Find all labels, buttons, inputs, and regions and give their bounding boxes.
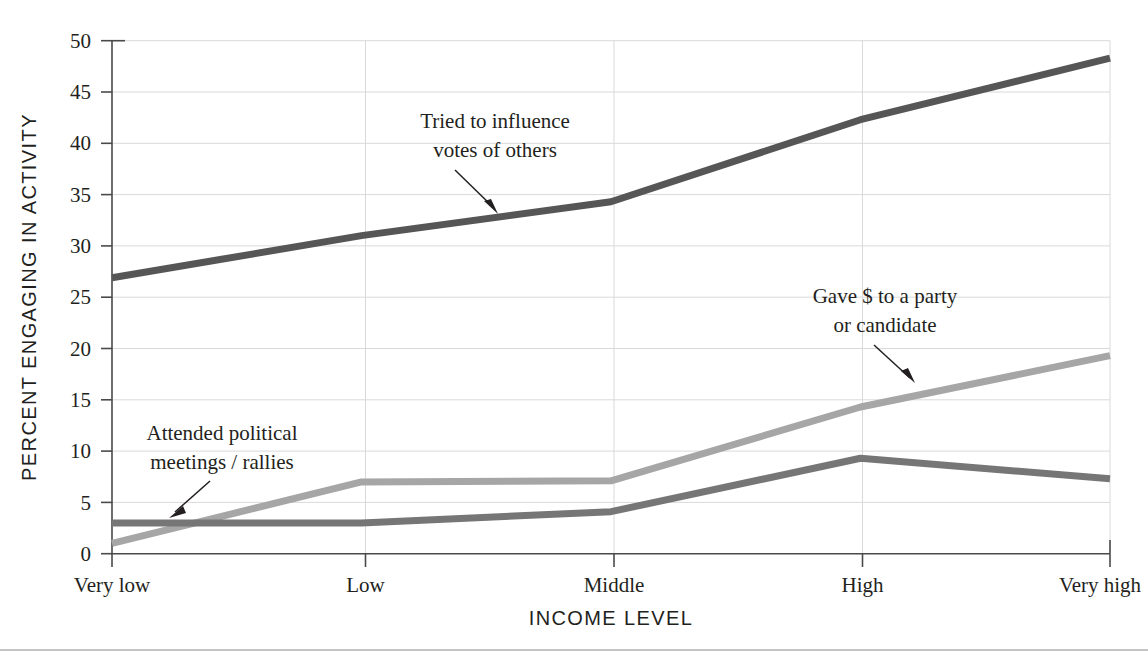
- x-tick-label-low: Low: [346, 573, 385, 597]
- chart-figure: 50 45 40 35 30 25 20 15 10 5 0 Very low …: [0, 0, 1148, 660]
- y-tick-label-20: 20: [70, 337, 91, 361]
- annotation-attended-line1: Attended political: [146, 421, 297, 445]
- y-tick-label-5: 5: [81, 491, 92, 515]
- x-tick-label-middle: Middle: [584, 573, 645, 597]
- x-axis-title: INCOME LEVEL: [529, 607, 694, 629]
- y-tick-label-15: 15: [70, 388, 91, 412]
- y-tick-label-35: 35: [70, 183, 91, 207]
- y-tick-label-10: 10: [70, 439, 91, 463]
- x-tick-label-very-low: Very low: [74, 573, 151, 597]
- x-tick-label-very-high: Very high: [1059, 573, 1142, 597]
- line-chart-canvas: 50 45 40 35 30 25 20 15 10 5 0 Very low …: [0, 0, 1148, 660]
- annotation-attended-line2: meetings / rallies: [150, 450, 293, 474]
- y-tick-label-40: 40: [70, 131, 91, 155]
- y-tick-label-0: 0: [81, 542, 92, 566]
- x-tick-label-high: High: [842, 573, 885, 597]
- y-tick-label-25: 25: [70, 285, 91, 309]
- annotation-influence-line2: votes of others: [433, 138, 557, 162]
- y-tick-label-50: 50: [70, 29, 91, 53]
- chart-background: [0, 0, 1148, 660]
- y-tick-label-30: 30: [70, 234, 91, 258]
- annotation-gave-money-line2: or candidate: [833, 313, 936, 337]
- annotation-gave-money-line1: Gave $ to a party: [813, 284, 958, 308]
- y-tick-label-45: 45: [70, 80, 91, 104]
- annotation-influence-line1: Tried to influence: [420, 109, 570, 133]
- y-axis-title: PERCENT ENGAGING IN ACTIVITY: [18, 113, 40, 481]
